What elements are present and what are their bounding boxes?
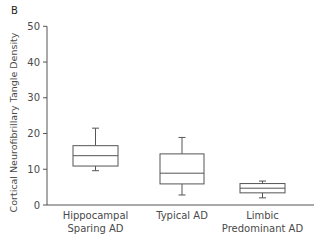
box-plot-chart: B 01020304050 HippocampalSparing ADTypic… xyxy=(0,0,323,242)
box-iqr xyxy=(160,154,204,184)
boxes xyxy=(73,128,285,198)
y-tick-label: 50 xyxy=(27,21,40,32)
y-tick-label: 30 xyxy=(27,92,40,103)
x-category-label: Typical AD xyxy=(155,210,208,221)
y-axis-label: Cortical Neurofibrillary Tangle Density xyxy=(8,32,19,212)
y-tick-label: 40 xyxy=(27,57,40,68)
x-category-label: Sparing AD xyxy=(67,223,123,234)
y-tick-label: 0 xyxy=(34,200,40,211)
panel-label: B xyxy=(11,5,18,16)
box-2 xyxy=(160,137,204,195)
y-tick-label: 20 xyxy=(27,128,40,139)
x-axis: HippocampalSparing ADTypical ADLimbicPre… xyxy=(47,205,314,234)
y-axis: 01020304050 xyxy=(27,21,47,211)
x-category-label: Hippocampal xyxy=(63,210,129,221)
x-category-label: Limbic xyxy=(246,210,279,221)
box-3 xyxy=(240,181,285,198)
x-category-label: Predominant AD xyxy=(222,223,304,234)
box-1 xyxy=(73,128,118,171)
y-tick-label: 10 xyxy=(27,164,40,175)
